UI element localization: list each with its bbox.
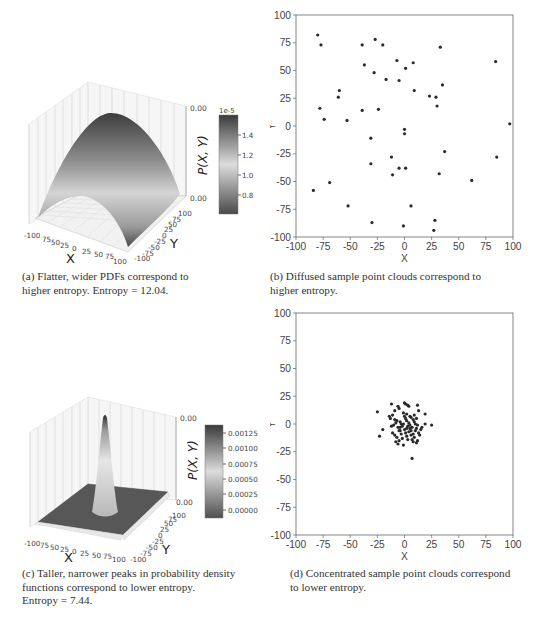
scatter-point (391, 173, 394, 176)
scatter-point (402, 224, 405, 227)
scatter-point (404, 167, 407, 170)
scatter-point (374, 38, 377, 41)
scatter-point (361, 43, 364, 46)
scatter-point (363, 63, 366, 66)
y-tick-label: 25 (280, 93, 292, 104)
scatter-point (406, 438, 409, 441)
scatter-point (384, 78, 387, 81)
scatter-point (433, 219, 436, 222)
scatter-point (409, 204, 412, 207)
svg-text:25: 25 (82, 247, 91, 256)
scatter-point (381, 43, 384, 46)
scatter-point (408, 424, 411, 427)
x-axis-label: X (66, 251, 75, 265)
svg-text:0.00000: 0.00000 (228, 506, 258, 515)
x-axis-label: X (401, 551, 408, 562)
x-tick-label: 50 (453, 539, 465, 550)
caption-c-line-1: (c) Taller, narrower peaks in probabilit… (22, 567, 267, 581)
scatter-point (389, 417, 392, 420)
scatter-point (316, 33, 319, 36)
svg-text:100: 100 (172, 511, 186, 520)
caption-b-line-2: higher entropy. (270, 284, 540, 298)
x-axis-label: X (64, 550, 73, 562)
scatter-point (390, 425, 393, 428)
scatter-point (495, 155, 498, 158)
scatter-point (345, 119, 348, 122)
y-axis-label: Y (161, 542, 170, 557)
scatter-point (441, 83, 444, 86)
scatter-point (318, 107, 321, 110)
scatter-point (405, 435, 408, 438)
x-tick-label: 25 (426, 539, 438, 550)
scatter-point (395, 419, 398, 422)
x-tick-label: 0 (402, 241, 408, 252)
y-tick-label: 50 (280, 65, 292, 76)
svg-text:100: 100 (113, 257, 127, 265)
x-tick-label: -50 (343, 241, 358, 252)
scatter-point (369, 137, 372, 140)
scatter-point (397, 407, 400, 410)
caption-a-line-2: higher entropy. Entropy = 12.04. (22, 284, 262, 298)
scatter-point (405, 412, 408, 415)
z-tick-bottom: 0.00 (190, 194, 207, 203)
scatter-point (378, 435, 381, 438)
scatter-point (415, 441, 418, 444)
x-tick-label: 50 (453, 241, 465, 252)
caption-c-line-2: functions correspond to lower entropy. (22, 581, 267, 595)
scatter-point (401, 437, 404, 440)
scatter-point (361, 109, 364, 112)
svg-text:50: 50 (50, 543, 60, 552)
scatter-point (399, 426, 402, 429)
x-tick-label: -75 (316, 241, 331, 252)
scatter-point (323, 118, 326, 121)
scatter-point (470, 179, 473, 182)
panel-a-surface-plot: 0.00 0.00 -100755025 0255075100 X -100-7… (0, 0, 270, 265)
scatter-point (410, 457, 413, 460)
scatter-point (381, 428, 384, 431)
scatter-point (404, 67, 407, 70)
scatter-point (396, 442, 399, 445)
scatter-point (338, 89, 341, 92)
svg-text:1.2: 1.2 (242, 151, 253, 160)
caption-d: (d) Concentrated sample point clouds cor… (290, 567, 540, 594)
x-tick-label: 75 (480, 539, 492, 550)
caption-c-line-3: Entropy = 7.44. (22, 594, 267, 608)
scatter-point (319, 43, 322, 46)
scatter-point (439, 46, 442, 49)
scatter-point (443, 150, 446, 153)
scatter-point (337, 96, 340, 99)
scatter-point (420, 426, 423, 429)
x-tick-label: -25 (370, 539, 385, 550)
scatter-point (328, 181, 331, 184)
x-tick-label: 100 (505, 241, 522, 252)
scatter-point (407, 405, 410, 408)
x-tick-label: -50 (343, 539, 358, 550)
scatter-point (346, 204, 349, 207)
x-tick-label: 100 (505, 539, 522, 550)
y-tick-label: 0 (285, 419, 291, 430)
scatter-point (508, 122, 511, 125)
x-tick-label: 0 (402, 539, 408, 550)
y-tick-label: -75 (276, 502, 291, 513)
caption-b-line-1: (b) Diffused sample point clouds corresp… (270, 270, 540, 284)
scatter-point (403, 132, 406, 135)
scatter-point (413, 89, 416, 92)
y-tick-label: 0 (285, 121, 291, 132)
svg-text:75: 75 (40, 541, 49, 550)
surface-3d-peak: 0.00 0.00 -100755025 0255075100 X -100-7… (0, 372, 270, 562)
svg-text:25: 25 (80, 549, 89, 558)
svg-text:1.0: 1.0 (242, 171, 254, 180)
plot-area (296, 15, 513, 237)
scatter-diffuse: 1007550250-25-50-75-100 -100-75-50-25025… (270, 0, 540, 265)
panel-d-scatter-plot: 1007550250-25-50-75-100 -100-75-50-25025… (270, 298, 540, 563)
colorbar-label: P(X, Y) (186, 440, 200, 480)
scatter-point (435, 104, 438, 107)
scatter-point (413, 414, 416, 417)
x-axis-label: X (401, 253, 408, 264)
scatter-point (393, 409, 396, 412)
scatter-concentrated: 1007550250-25-50-75-100 -100-75-50-25025… (270, 298, 540, 563)
scatter-point (418, 434, 421, 437)
panel-c-surface-plot: 0.00 0.00 -100755025 0255075100 X -100-7… (0, 372, 270, 562)
svg-text:75: 75 (103, 552, 112, 561)
scatter-point (432, 229, 435, 232)
